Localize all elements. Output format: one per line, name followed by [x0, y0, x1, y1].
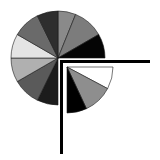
- pie-chart-graphic: [0, 0, 160, 160]
- detached-pie-quarter: [67, 67, 113, 113]
- bracket-vertical-bar: [60, 60, 63, 154]
- bracket-horizontal-bar: [60, 60, 150, 63]
